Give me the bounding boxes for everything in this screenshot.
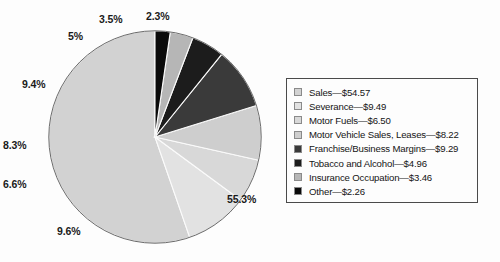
legend-item-label: Other—$2.26 — [309, 186, 365, 197]
legend-swatch-icon — [294, 88, 302, 96]
pct-label-insurance: 3.5% — [99, 13, 123, 25]
legend-swatch-icon — [294, 159, 302, 167]
legend-item-label: Severance—$9.49 — [309, 101, 386, 112]
legend-item-label: Franchise/Business Margins—$9.29 — [309, 143, 458, 154]
legend-swatch-icon — [294, 102, 302, 110]
pct-label-tobacco: 5% — [68, 30, 83, 42]
legend-swatch-icon — [294, 145, 302, 153]
legend-item[interactable]: Sales—$54.57 — [294, 85, 477, 99]
pie-chart-figure: 55.3% 9.6% 6.6% 8.3% 9.4% 5% 3.5% 2.3% S… — [0, 0, 500, 262]
legend-swatch-icon — [294, 187, 302, 195]
pct-label-motor-fuels: 6.6% — [3, 178, 27, 190]
pie-svg — [48, 30, 262, 244]
legend-item[interactable]: Severance—$9.49 — [294, 99, 477, 113]
legend-item[interactable]: Motor Fuels—$6.50 — [294, 113, 477, 127]
legend-swatch-icon — [294, 131, 302, 139]
legend-swatch-icon — [294, 173, 302, 181]
pie-chart — [48, 30, 262, 244]
chart-legend: Sales—$54.57Severance—$9.49Motor Fuels—$… — [286, 78, 478, 203]
legend-item[interactable]: Insurance Occupation—$3.46 — [294, 170, 477, 184]
pct-label-severance: 9.6% — [57, 225, 81, 237]
legend-item[interactable]: Tobacco and Alcohol—$4.96 — [294, 156, 477, 170]
legend-item[interactable]: Other—$2.26 — [294, 184, 477, 198]
legend-item-label: Tobacco and Alcohol—$4.96 — [309, 158, 427, 169]
pct-label-other: 2.3% — [146, 10, 170, 22]
pct-label-sales: 55.3% — [227, 193, 256, 205]
legend-item-label: Motor Vehicle Sales, Leases—$8.22 — [309, 129, 459, 140]
pct-label-franchise: 9.4% — [22, 78, 46, 90]
legend-item-label: Motor Fuels—$6.50 — [309, 115, 391, 126]
legend-item-label: Insurance Occupation—$3.46 — [309, 172, 432, 183]
pct-label-motor-vehicle: 8.3% — [3, 139, 27, 151]
legend-item-label: Sales—$54.57 — [309, 87, 370, 98]
legend-item[interactable]: Franchise/Business Margins—$9.29 — [294, 142, 477, 156]
legend-item-list: Sales—$54.57Severance—$9.49Motor Fuels—$… — [294, 85, 477, 199]
legend-item[interactable]: Motor Vehicle Sales, Leases—$8.22 — [294, 128, 477, 142]
legend-swatch-icon — [294, 116, 302, 124]
pie-slice-group — [49, 31, 261, 243]
